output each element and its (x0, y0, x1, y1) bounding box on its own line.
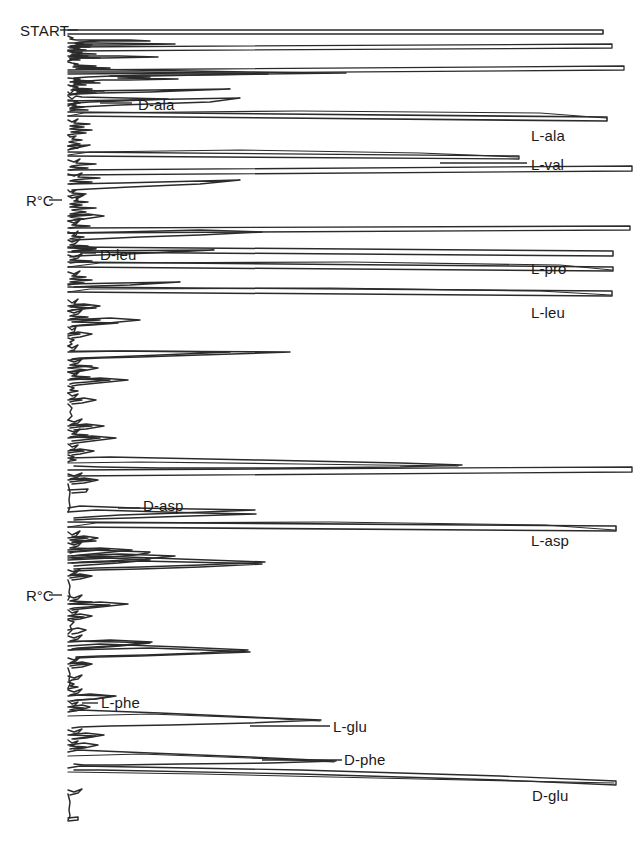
temperature-label-1: R°C (26, 193, 54, 208)
trace-paths (68, 30, 632, 821)
temperature-label-2: R°C (26, 588, 54, 603)
peak-label-l-phe: L-phe (101, 695, 140, 710)
peak-label-l-ala: L-ala (531, 128, 565, 143)
peak-label-l-pro: L-pro (531, 261, 567, 276)
peak-label-d-asp: D-asp (143, 498, 184, 513)
peak-label-d-ala: D-ala (138, 97, 174, 112)
peak-label-l-leu: L-leu (531, 305, 565, 320)
start-label: START (20, 23, 69, 38)
peak-label-d-glu: D-glu (532, 788, 568, 803)
peak-label-d-leu: D-leu (100, 247, 136, 262)
chromatogram-figure: START R°C R°C D-ala L-ala L-val D-leu L-… (0, 0, 637, 841)
peak-label-l-glu: L-glu (333, 719, 367, 734)
peak-label-l-val: L-val (531, 157, 564, 172)
peak-label-d-phe: D-phe (344, 752, 385, 767)
peak-label-l-asp: L-asp (531, 533, 569, 548)
label-leader-lines (49, 30, 527, 760)
